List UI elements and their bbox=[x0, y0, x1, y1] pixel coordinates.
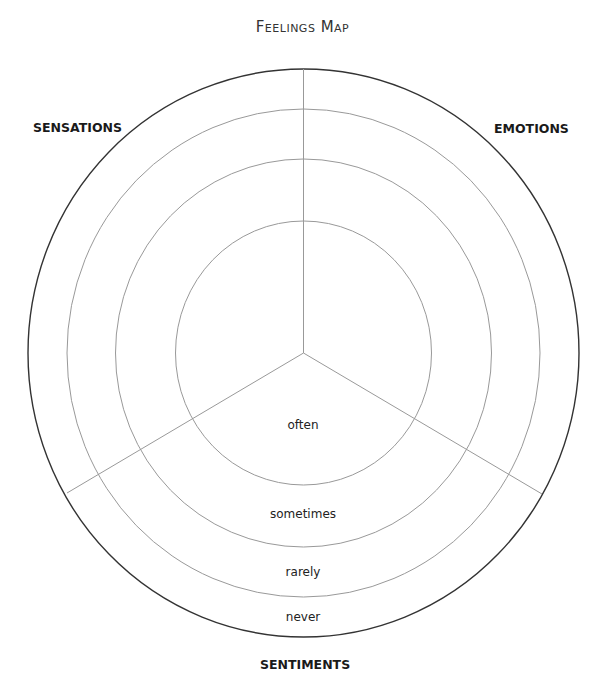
divider-lower-left bbox=[67, 353, 304, 493]
feelings-map-diagram: often sometimes rarely never bbox=[0, 0, 605, 698]
ring-label-rarely: rarely bbox=[286, 565, 321, 579]
divider-lower-right bbox=[304, 353, 543, 494]
ring-label-never: never bbox=[286, 610, 320, 624]
ring-label-sometimes: sometimes bbox=[270, 507, 336, 521]
ring-label-often: often bbox=[287, 418, 318, 432]
